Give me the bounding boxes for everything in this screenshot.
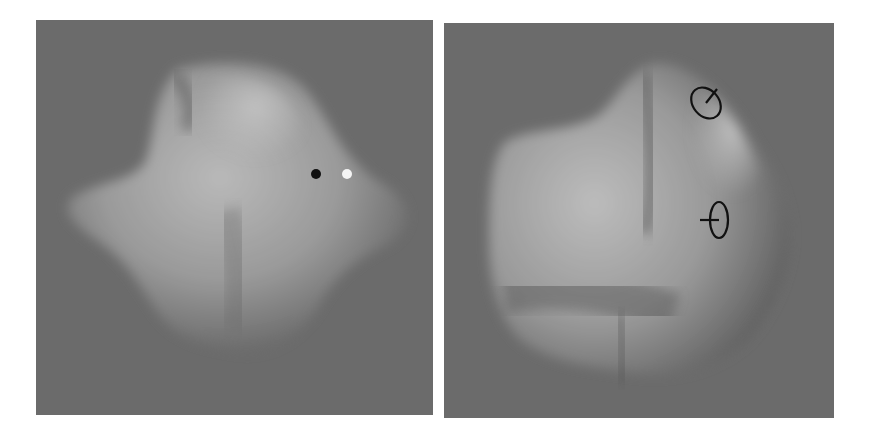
right-render-panel — [444, 23, 834, 418]
dark-dot-marker — [311, 169, 321, 179]
light-dot-marker — [342, 169, 352, 179]
left-blob-render — [36, 20, 433, 415]
left-render-panel — [36, 20, 433, 415]
right-blob-render — [444, 23, 834, 418]
